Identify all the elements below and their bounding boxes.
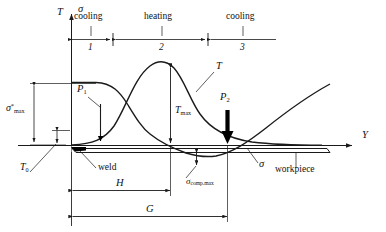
p2-label: P2	[220, 92, 230, 103]
temperature-label-leader	[196, 72, 214, 92]
zone-label-cooling-3: cooling	[226, 12, 255, 22]
p1-load-arrow	[88, 97, 101, 141]
stress-curve-label: σ	[259, 159, 264, 170]
temperature-curve-label: T	[216, 61, 222, 72]
workpiece-plate	[72, 149, 330, 153]
sigma-comp-max-dimension	[186, 153, 197, 178]
p2-subscript: 2	[226, 96, 229, 103]
zone-label-heating-2: heating	[144, 12, 172, 22]
zone-dimension-line	[72, 26, 276, 46]
h-dimension-label: H	[116, 178, 124, 189]
tmax-label: Tmax	[175, 105, 191, 116]
tmax-subscript: max	[181, 109, 192, 116]
sigma-comp-subscript: comp.max	[190, 180, 213, 186]
g-dimension-label: G	[146, 204, 154, 215]
zone-number-1: 1	[88, 43, 93, 53]
p2-load-arrow	[222, 110, 234, 144]
zone-number-3: 3	[240, 43, 245, 53]
figure-canvas: T σ Y cooling heating cooling 1 2 3 σ*ma…	[0, 0, 386, 232]
sigma-comp-max-label: σcomp.max	[186, 177, 214, 187]
workpiece-label: workpiece	[275, 165, 315, 175]
diagram-vector-layer	[0, 0, 386, 232]
axis-label-T: T	[57, 7, 63, 18]
weld-label: weld	[98, 163, 116, 173]
t0-subscript: 0	[26, 166, 29, 173]
weld-label-leader	[80, 151, 96, 168]
axis-label-Y: Y	[362, 130, 368, 141]
p1-subscript: 1	[83, 88, 86, 95]
sigma-max-subscript: max	[14, 107, 25, 114]
zone-number-2: 2	[159, 43, 164, 53]
sigma-max-label: σ*max	[6, 103, 25, 114]
temperature-curve	[72, 62, 322, 146]
p1-label: P1	[77, 84, 87, 95]
t0-dimension	[30, 131, 70, 173]
zone-label-cooling-1: cooling	[74, 12, 103, 22]
t0-label: T0	[20, 162, 29, 173]
